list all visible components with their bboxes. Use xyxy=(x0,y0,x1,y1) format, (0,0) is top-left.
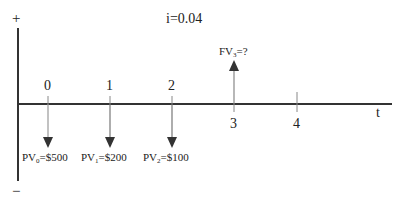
cash-flow-label-pv2: PV2=$100 xyxy=(143,152,189,165)
tick-label-2: 2 xyxy=(168,79,175,93)
tick-label-4: 4 xyxy=(293,117,300,131)
positive-sign: + xyxy=(12,11,20,26)
cash-flow-label-fv3: FV3=? xyxy=(219,46,248,59)
negative-sign: − xyxy=(12,184,20,198)
timeline-graphic xyxy=(0,0,404,198)
arrow-up-icon xyxy=(229,60,239,104)
arrow-down-icon xyxy=(167,104,177,148)
interest-rate-label: i=0.04 xyxy=(166,12,202,26)
time-axis-label: t xyxy=(376,106,380,120)
cash-flow-label-pv1: PV1=$200 xyxy=(81,152,127,165)
tick-label-3: 3 xyxy=(230,117,237,131)
cash-flow-label-pv0: PV0=$500 xyxy=(22,152,68,165)
tick-label-0: 0 xyxy=(44,79,51,93)
arrow-down-icon xyxy=(105,104,115,148)
tick-label-1: 1 xyxy=(106,79,113,93)
arrow-down-icon xyxy=(43,104,53,148)
